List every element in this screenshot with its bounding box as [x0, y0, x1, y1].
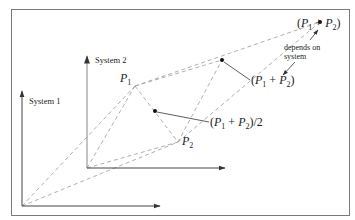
system1-label: System 1 — [29, 96, 60, 106]
depends-on-system-note: depends on system — [283, 30, 320, 75]
dashed-construction-lines — [22, 22, 320, 206]
midpoint-label: (P1 + P2)/2 — [210, 115, 263, 131]
p1-label: P1 — [119, 71, 131, 87]
sum-system2-label: (P1 + P2) — [251, 73, 294, 89]
p2-label: P2 — [181, 134, 193, 150]
system2-label: System 2 — [95, 55, 126, 65]
midpoint-dot — [153, 109, 157, 113]
midpoint-leader — [157, 112, 209, 122]
sum-system2-dot — [220, 58, 224, 62]
sum-system1-label: (P1 + P2) — [297, 16, 340, 32]
note-line1: depends on — [284, 43, 320, 52]
affine-combination-diagram: System 1 System 2 P1 P2 (P1 + P2)/2 (P1 … — [0, 0, 355, 220]
sum-system2-leader — [224, 62, 250, 80]
system1-axes: System 1 — [22, 91, 160, 206]
note-line2: system — [284, 52, 307, 61]
